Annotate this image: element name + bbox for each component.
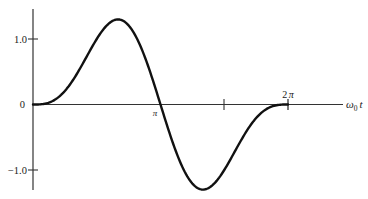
y-tick-label-minus1: −1.0 — [8, 165, 27, 176]
x-tick-label-2pi: 2π — [282, 89, 295, 100]
x-tick-label-pi: π — [153, 108, 158, 118]
y-tick-label-0: 0 — [20, 99, 25, 110]
x-axis-label: ω0t — [346, 98, 364, 113]
chart: 1.0 0 −1.0 π 2π ω0t — [0, 0, 368, 199]
y-tick-label-1: 1.0 — [14, 34, 27, 45]
